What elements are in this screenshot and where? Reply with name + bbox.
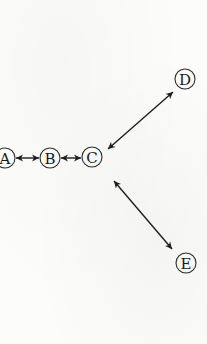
node-a-label: A: [0, 150, 11, 168]
node-b: B: [40, 148, 60, 168]
node-d: D: [175, 69, 195, 89]
edge-c-e: [114, 181, 172, 249]
node-c: C: [82, 147, 102, 167]
node-d-label: D: [179, 71, 191, 89]
node-e-label: E: [181, 255, 192, 273]
diagram-canvas: A B C D E: [0, 0, 207, 344]
node-e: E: [176, 253, 196, 273]
graph-diagram: A B C D E: [0, 0, 207, 344]
node-b-label: B: [44, 150, 55, 168]
node-a: A: [0, 148, 15, 168]
node-c-label: C: [86, 149, 97, 167]
edge-c-d: [108, 92, 173, 149]
